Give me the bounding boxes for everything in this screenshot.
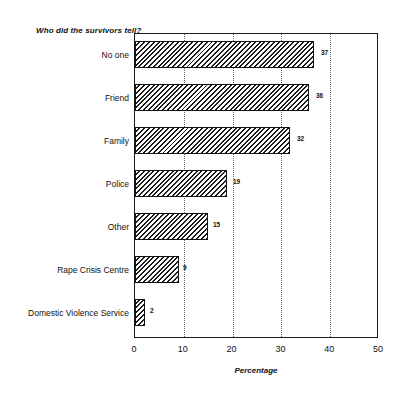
bar-other[interactable]: [135, 213, 208, 240]
gridline-20: [233, 34, 234, 337]
bar-family[interactable]: [135, 127, 290, 154]
bar-value-rape-crisis-centre: 9: [183, 264, 187, 271]
xtick-label-10: 10: [170, 344, 196, 354]
category-label-no-one: No one: [102, 50, 129, 60]
bar-value-family: 32: [297, 135, 304, 142]
category-label-other: Other: [108, 222, 129, 232]
x-axis-title: Percentage: [134, 366, 378, 375]
category-label-domestic-violence-service: Domestic Violence Service: [28, 308, 129, 318]
xtick-label-30: 30: [267, 344, 293, 354]
gridline-40: [330, 34, 331, 337]
chart-title: Who did the survivors tell?: [36, 26, 141, 35]
bar-domestic-violence-service[interactable]: [135, 299, 145, 326]
xtick-label-0: 0: [121, 344, 147, 354]
bar-chart: Who did the survivors tell? 37 36 32 19 …: [0, 0, 409, 405]
category-label-friend: Friend: [105, 93, 129, 103]
category-label-family: Family: [104, 136, 129, 146]
bar-rape-crisis-centre[interactable]: [135, 256, 179, 283]
bar-value-police: 19: [233, 178, 240, 185]
bar-value-other: 15: [213, 221, 220, 228]
bar-value-domestic-violence-service: 2: [150, 307, 154, 314]
xtick-label-20: 20: [219, 344, 245, 354]
bar-friend[interactable]: [135, 84, 309, 111]
plot-area: 37 36 32 19 15 9 2: [134, 33, 378, 338]
category-label-rape-crisis-centre: Rape Crisis Centre: [57, 265, 129, 275]
gridline-30: [281, 34, 282, 337]
xtick-label-40: 40: [316, 344, 342, 354]
bar-no-one[interactable]: [135, 41, 314, 68]
category-label-police: Police: [106, 179, 129, 189]
bar-value-friend: 36: [316, 92, 323, 99]
bar-police[interactable]: [135, 170, 227, 197]
bar-value-no-one: 37: [321, 49, 328, 56]
xtick-label-50: 50: [365, 344, 391, 354]
